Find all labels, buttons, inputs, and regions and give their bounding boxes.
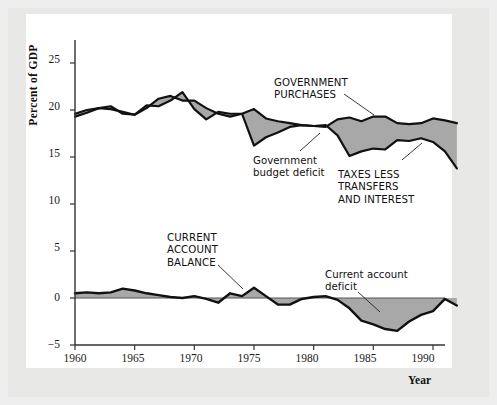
leader-line-current-account-balance (218, 265, 243, 289)
leader-line-taxes-less-transfers (402, 143, 422, 160)
government-budget-deficit-shaded-area (75, 92, 457, 168)
leader-line-government-purchases (344, 94, 374, 115)
current-account-shaded-area (75, 288, 457, 331)
leader-line-government-budget-deficit (300, 133, 320, 151)
chart-figure: Percent of GDP 25 20 15 10 5 0 −5 1960 1… (0, 0, 497, 405)
chart-svg-layer (0, 0, 497, 405)
